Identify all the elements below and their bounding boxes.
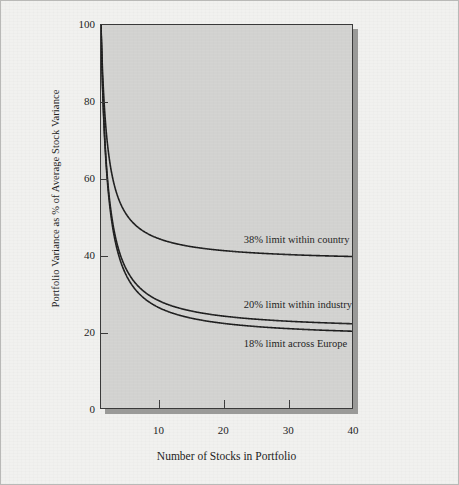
curve-series-0	[101, 25, 352, 257]
curve-series-1	[101, 25, 352, 324]
curve-annotation-2: 18% limit across Europe	[244, 339, 348, 350]
y-tick-20	[101, 333, 108, 334]
y-tick-40	[101, 256, 108, 257]
chart-figure: 38% limit within country20% limit within…	[0, 0, 459, 485]
x-tick-label-30: 30	[268, 425, 308, 436]
curve-annotation-1: 20% limit within industry	[244, 300, 352, 311]
x-tick-label-20: 20	[203, 425, 243, 436]
x-tick-30	[289, 400, 290, 408]
y-tick-label-40: 40	[55, 250, 95, 261]
y-tick-label-80: 80	[55, 96, 95, 107]
y-tick-60	[101, 179, 108, 180]
x-tick-20	[224, 400, 225, 408]
x-tick-label-10: 10	[138, 425, 178, 436]
plot-area: 38% limit within country20% limit within…	[100, 24, 353, 409]
curve-canvas	[101, 25, 352, 408]
y-tick-80	[101, 102, 108, 103]
y-tick-label-100: 100	[55, 19, 95, 30]
curve-annotation-0: 38% limit within country	[244, 235, 350, 246]
x-tick-label-40: 40	[333, 425, 373, 436]
x-tick-10	[159, 400, 160, 408]
x-axis-title: Number of Stocks in Portfolio	[100, 450, 353, 462]
y-tick-label-20: 20	[55, 327, 95, 338]
x-axis-tick-labels: 10203040	[100, 425, 353, 441]
y-axis-title: Portfolio Variance as % of Average Stock…	[50, 69, 61, 329]
y-tick-label-60: 60	[55, 173, 95, 184]
curve-series-2	[101, 25, 352, 331]
y-tick-label-0: 0	[55, 404, 95, 415]
